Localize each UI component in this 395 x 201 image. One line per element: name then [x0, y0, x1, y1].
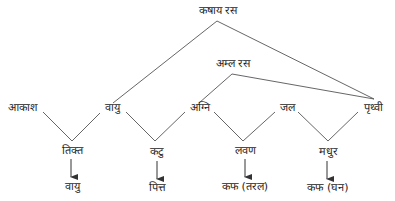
label-dosha-pitta: पित्त	[149, 181, 166, 194]
label-dosha-vayu: वायु	[65, 180, 80, 193]
edge-amla-prithvi	[232, 74, 374, 99]
edge-jal-prithvi-madhur	[298, 112, 358, 141]
label-amla-rasa: अम्ल रस	[216, 57, 251, 70]
label-rasa-tikta: तिक्त	[62, 144, 83, 157]
label-element-akash: आकाश	[8, 101, 37, 114]
edge-akash-vayu-tikta	[43, 112, 100, 141]
label-element-vayu: वायु	[105, 101, 120, 114]
label-dosha-kapha-taral: कफ (तरल)	[222, 180, 268, 193]
label-kashaya-rasa: कषाय रस	[199, 4, 238, 17]
label-rasa-lavan: लवण	[235, 144, 256, 157]
label-dosha-kapha-ghan: कफ (घन)	[307, 181, 348, 194]
label-element-prithvi: पृथ्वी	[364, 101, 383, 114]
rasa-diagram: कषाय रस अम्ल रस आकाश वायु अग्नि जल पृथ्व…	[0, 0, 395, 201]
edge-amla-agni	[199, 74, 232, 103]
edge-kashaya-vayu	[113, 21, 217, 103]
edge-vayu-agni-katu	[126, 112, 185, 141]
label-element-agni: अग्नि	[190, 101, 210, 114]
label-element-jal: जल	[280, 101, 295, 114]
label-rasa-katu: कटु	[150, 145, 164, 158]
edge-agni-jal-lavan	[214, 112, 275, 141]
label-rasa-madhur: मधुर	[319, 145, 338, 158]
